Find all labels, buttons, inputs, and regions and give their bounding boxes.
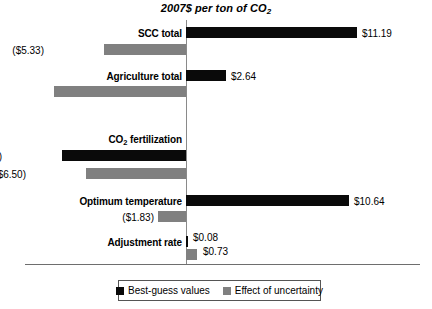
bar-agriculture-total-best-guess	[186, 70, 226, 81]
value-label-scc-total-uncertainty: ($5.33)	[12, 45, 44, 56]
value-label-co2-fertilization-uncertainty: ($6.50)	[0, 169, 26, 180]
value-label-scc-total-best-guess: $11.19	[362, 28, 392, 39]
chart-canvas: 2007$ per ton of CO2 SCC total $11.19 ($…	[0, 0, 432, 309]
value-label-adjustment-rate-best-guess: $0.08	[193, 232, 218, 243]
chart-title-subscript: 2	[267, 7, 272, 16]
bar-adjustment-rate-best-guess	[186, 236, 188, 247]
category-label-adjustment-rate: Adjustment rate	[107, 237, 182, 248]
chart-title: 2007$ per ton of CO2	[0, 2, 432, 14]
legend-item-uncertainty: Effect of uncertainty	[223, 285, 323, 296]
bar-scc-total-uncertainty	[104, 44, 186, 55]
value-label-agriculture-total-best-guess: $2.64	[231, 71, 256, 82]
legend-item-best-guess: Best-guess values	[116, 285, 210, 296]
category-label-optimum-temperature: Optimum temperature	[79, 196, 182, 207]
bar-optimum-temperature-best-guess	[186, 195, 349, 206]
value-label-optimum-temperature-uncertainty: ($1.83)	[122, 212, 154, 223]
zero-axis-line	[186, 20, 187, 265]
x-axis-baseline	[25, 264, 420, 265]
bar-co2-fertilization-uncertainty	[86, 168, 186, 179]
bar-adjustment-rate-uncertainty	[186, 249, 197, 260]
category-label-agriculture-total: Agriculture total	[106, 71, 182, 82]
co2-label-tail: fertilization	[127, 134, 182, 145]
category-label-co2-fertilization: CO2 fertilization	[108, 134, 182, 145]
legend-swatch-best-guess-icon	[116, 287, 124, 295]
bar-agriculture-total-uncertainty	[54, 86, 186, 97]
chart-title-text: 2007$ per ton of CO	[161, 2, 267, 14]
chart-legend: Best-guess values Effect of uncertainty	[118, 280, 321, 301]
value-label-co2-fertilization-best-guess: ($8.09)	[0, 151, 2, 162]
legend-swatch-uncertainty-icon	[223, 287, 231, 295]
co2-label-subscript: 2	[123, 138, 127, 147]
co2-label-main: CO	[108, 134, 123, 145]
legend-label-best-guess: Best-guess values	[128, 285, 210, 296]
legend-label-uncertainty: Effect of uncertainty	[235, 285, 323, 296]
category-label-scc-total: SCC total	[138, 28, 182, 39]
value-label-adjustment-rate-uncertainty: $0.73	[203, 246, 228, 257]
bar-optimum-temperature-uncertainty	[158, 211, 186, 222]
bar-scc-total-best-guess	[186, 27, 357, 38]
bar-co2-fertilization-best-guess	[62, 150, 186, 161]
value-label-optimum-temperature-best-guess: $10.64	[354, 196, 385, 207]
